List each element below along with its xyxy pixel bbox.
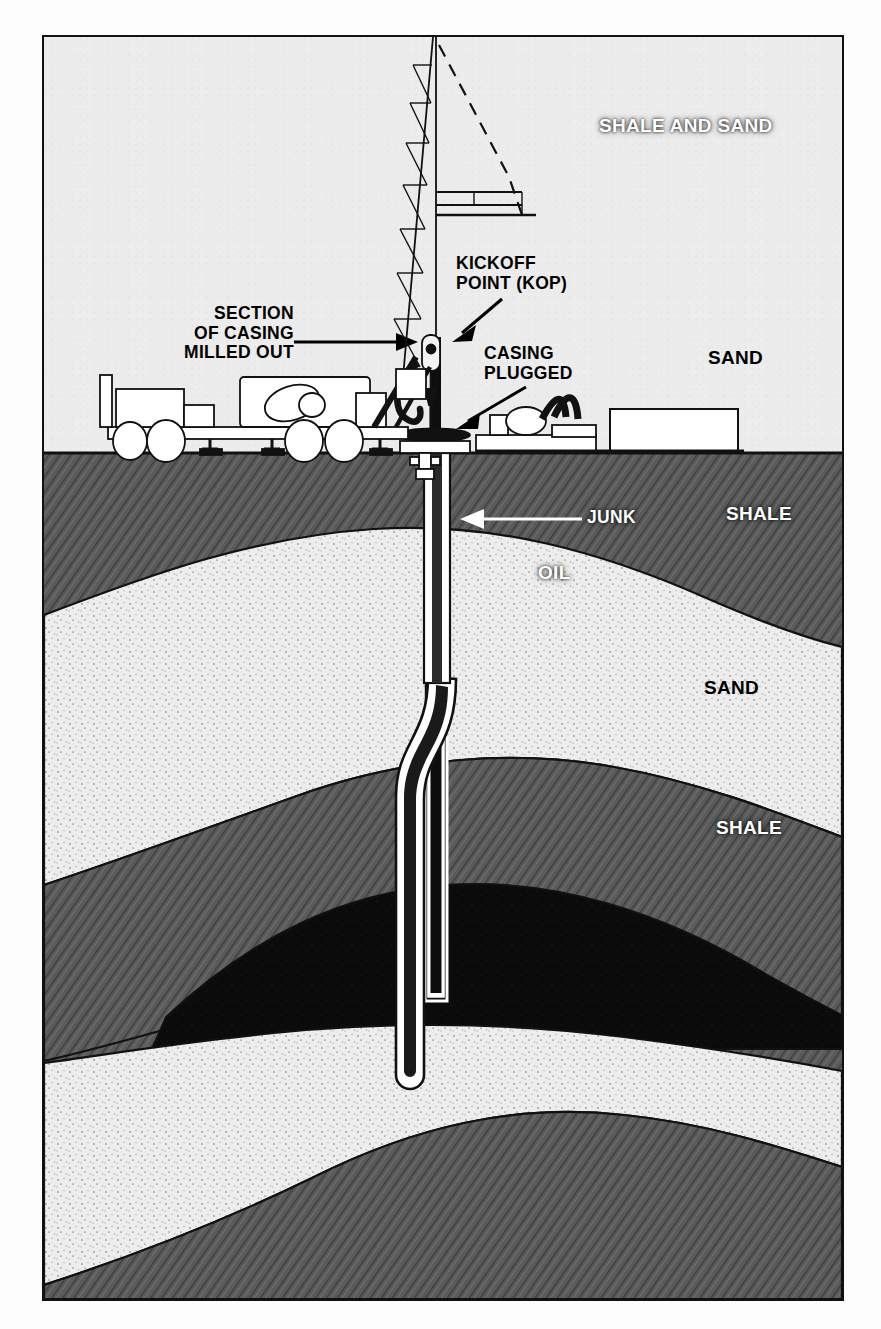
callout-kickoff-point: KICKOFF POINT (KOP) (456, 254, 567, 293)
diagram-frame: SHALE AND SAND SAND SHALE OIL SAND SHALE… (42, 35, 844, 1301)
label-shale-and-sand: SHALE AND SAND (599, 115, 772, 136)
callout-section-of-casing-milled-out: SECTION OF CASING MILLED OUT (184, 304, 294, 363)
label-sand-upper: SAND (708, 347, 763, 368)
label-shale-middle: SHALE (726, 503, 792, 524)
label-sand-lower: SAND (704, 677, 759, 698)
drilling-rig (44, 37, 842, 507)
callout-casing-plugged: CASING PLUGGED (484, 344, 573, 383)
pump-skid (476, 398, 596, 451)
derrick-guy-line (439, 45, 522, 215)
mud-tank (610, 409, 738, 453)
rig-carrier-truck (100, 357, 430, 462)
callout-junk: JUNK (587, 508, 636, 528)
label-shale-lower: SHALE (716, 817, 782, 838)
label-oil: OIL (538, 562, 571, 583)
